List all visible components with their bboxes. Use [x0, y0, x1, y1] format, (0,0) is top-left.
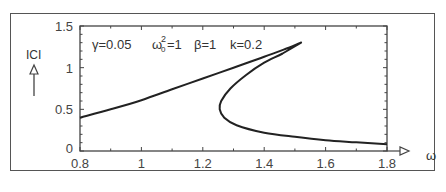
- annotation-gamma: γ=0.05: [92, 37, 131, 52]
- y-axis-arrow-icon: [30, 65, 38, 96]
- y-tick-label: 0: [66, 141, 73, 156]
- series-line: [80, 43, 387, 145]
- annotation-omega0-superscript: 2: [161, 34, 166, 44]
- y-tick-label: 1.5: [55, 19, 73, 34]
- x-tick-label: 1.6: [317, 156, 335, 171]
- y-tick-label: 0.5: [55, 102, 73, 117]
- x-tick-label: 1.8: [378, 156, 396, 171]
- frequency-response-chart: 0.811.21.41.61.800.511.5 γ=0.05 ω 2 0 =1…: [0, 0, 446, 192]
- annotation-k: k=0.2: [230, 37, 262, 52]
- y-axis-label: ICI: [26, 48, 41, 62]
- x-axis-arrow-icon: [387, 147, 409, 155]
- annotation-omega0-subscript: 0: [161, 45, 166, 54]
- annotation-omega0-value: =1: [167, 37, 182, 52]
- x-tick-label: 1: [138, 156, 145, 171]
- x-tick-label: 1.4: [255, 156, 273, 171]
- x-tick-label: 1.2: [194, 156, 212, 171]
- y-tick-label: 1: [66, 61, 73, 76]
- x-tick-label: 0.8: [71, 156, 89, 171]
- x-axis-label: ω: [426, 148, 436, 163]
- annotation-beta: β=1: [194, 37, 216, 52]
- annotation-omega0: ω 2 0 =1: [152, 34, 182, 54]
